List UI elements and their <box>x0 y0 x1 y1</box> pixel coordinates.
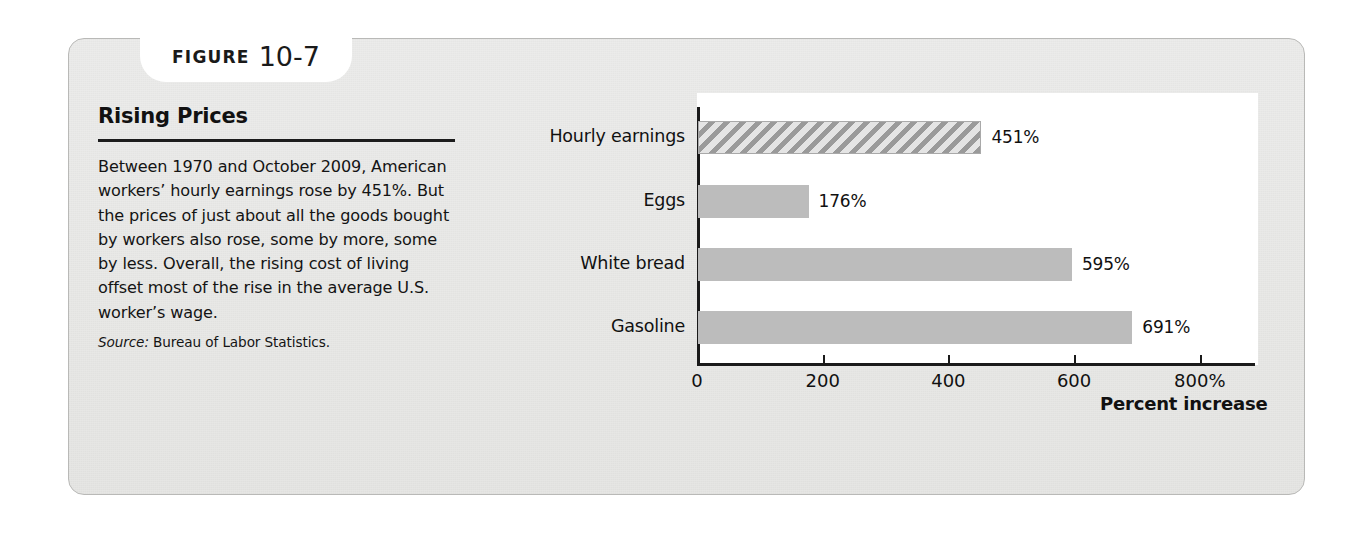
x-tick <box>948 355 950 364</box>
x-tick-label: 200 <box>806 370 840 391</box>
category-label-gasoline: Gasoline <box>611 316 685 336</box>
figure-number-label: 10-7 <box>259 41 320 72</box>
bar-eggs <box>698 185 809 218</box>
figure-caption-column: Rising Prices Between 1970 and October 2… <box>98 104 458 350</box>
bar-hourly-earnings <box>698 121 981 154</box>
figure-title: Rising Prices <box>98 104 458 128</box>
bar-value-label: 451% <box>991 127 1039 147</box>
x-tick-label: 600 <box>1057 370 1091 391</box>
category-label-eggs: Eggs <box>643 190 685 210</box>
source-text: Bureau of Labor Statistics. <box>153 334 330 350</box>
x-tick-label: 400 <box>931 370 965 391</box>
bar-value-label: 595% <box>1082 254 1130 274</box>
figure-body-text: Between 1970 and October 2009, American … <box>98 155 456 325</box>
category-label-hourly-earnings: Hourly earnings <box>549 126 685 146</box>
bar-value-label: 176% <box>819 191 867 211</box>
bar-value-label: 691% <box>1142 317 1190 337</box>
source-line: Source: Bureau of Labor Statistics. <box>98 334 458 350</box>
bar-white-bread <box>698 248 1072 281</box>
x-tick <box>823 355 825 364</box>
x-tick <box>1200 355 1202 364</box>
bar-chart: 451%176%595%691% 0200400600800% <box>697 93 1258 365</box>
x-axis-line <box>697 363 1255 366</box>
x-tick <box>1074 355 1076 364</box>
source-label: Source: <box>98 334 149 350</box>
title-divider <box>98 139 455 142</box>
x-tick-label: 0 <box>691 370 702 391</box>
x-axis-title: Percent increase <box>1100 393 1267 414</box>
figure-number-tab: FIGURE 10-7 <box>140 30 352 82</box>
bar-gasoline <box>698 311 1132 344</box>
figure-word-label: FIGURE <box>172 47 250 67</box>
category-label-white-bread: White bread <box>580 253 685 273</box>
x-tick-label: 800% <box>1174 370 1225 391</box>
